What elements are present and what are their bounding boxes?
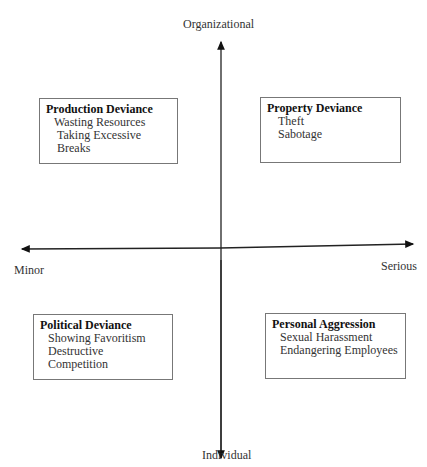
axis-label-organizational: Organizational <box>183 17 254 32</box>
quadrant-personal-aggression: Personal Aggression Sexual Harassment En… <box>265 313 406 379</box>
quadrant-item: Destructive Competition <box>40 345 166 371</box>
quadrant-item: Endangering Employees <box>272 344 399 357</box>
axis-label-minor: Minor <box>14 263 44 278</box>
quadrant-property-deviance: Property Deviance Theft Sabotage <box>260 97 401 163</box>
quadrant-item: Sabotage <box>267 128 394 141</box>
axis-label-serious: Serious <box>381 259 417 274</box>
horizontal-axis-left <box>22 248 220 249</box>
quadrant-production-deviance: Production Deviance Wasting Resources Ta… <box>39 98 178 164</box>
horizontal-axis <box>220 244 413 248</box>
quadrant-political-deviance: Political Deviance Showing Favoritism De… <box>33 314 173 380</box>
axes-diagram <box>0 0 427 467</box>
axis-label-individual: Individual <box>202 448 251 463</box>
quadrant-item: Taking Excessive Breaks <box>46 129 171 155</box>
